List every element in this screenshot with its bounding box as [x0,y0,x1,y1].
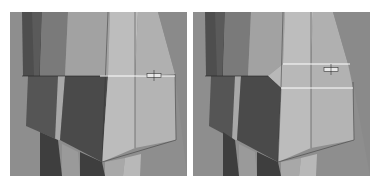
panel-before [10,12,187,176]
mesh-viewport-before [10,12,187,176]
mesh-viewport-after [193,12,370,176]
panel-after [193,12,370,176]
